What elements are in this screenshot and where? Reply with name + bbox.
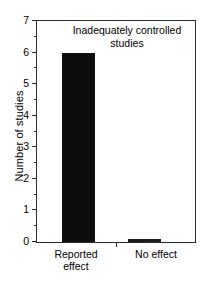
y-tick-label-6: 6: [23, 46, 29, 59]
y-tick-label-1: 1: [23, 203, 29, 216]
y-tick-label-2: 2: [23, 172, 29, 185]
y-tick-3: 3: [32, 146, 37, 147]
y-minor-tick-0: [34, 225, 37, 226]
x-category-label-reported-effect: Reported effect: [36, 248, 116, 272]
plot-area: Inadequately controlled studies 0 1 2 3 …: [36, 20, 196, 243]
y-minor-tick-1: [34, 194, 37, 195]
y-tick-7: 7: [32, 20, 37, 21]
chart-title-line-2: studies: [61, 37, 193, 50]
y-tick-label-3: 3: [23, 140, 29, 153]
x-category-label-reported-effect-line-1: Reported: [54, 248, 97, 260]
y-minor-tick-5: [34, 67, 37, 68]
y-tick-1: 1: [32, 209, 37, 210]
y-tick-5: 5: [32, 83, 37, 84]
bar-reported-effect: [62, 53, 96, 242]
y-tick-2: 2: [32, 178, 37, 179]
chart-title-line-1: Inadequately controlled: [73, 24, 182, 36]
y-tick-label-7: 7: [23, 14, 29, 27]
y-tick-label-0: 0: [23, 235, 29, 248]
y-minor-tick-6: [34, 36, 37, 37]
y-minor-tick-2: [34, 162, 37, 163]
y-tick-0: 0: [32, 241, 37, 242]
bar-no-effect: [128, 239, 162, 242]
x-category-label-reported-effect-line-2: effect: [36, 260, 116, 272]
x-tick-mid: [116, 242, 117, 247]
y-tick-4: 4: [32, 115, 37, 116]
bar-chart-figure: Number of studies Inadequately controlle…: [0, 0, 209, 284]
y-tick-6: 6: [32, 52, 37, 53]
y-tick-label-4: 4: [23, 109, 29, 122]
y-minor-tick-3: [34, 131, 37, 132]
x-category-label-no-effect-line-1: No effect: [135, 248, 177, 260]
x-category-label-no-effect: No effect: [116, 248, 196, 260]
chart-title: Inadequately controlled studies: [61, 24, 193, 49]
y-minor-tick-4: [34, 99, 37, 100]
y-tick-label-5: 5: [23, 77, 29, 90]
y-axis-title: Number of studies: [13, 46, 25, 226]
